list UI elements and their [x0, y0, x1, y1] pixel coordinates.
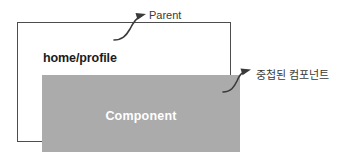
- parent-container-box: home/profile Component: [17, 22, 231, 142]
- nested-component-annotation-label: 중첩된 컴포넌트: [256, 66, 329, 82]
- component-label: Component: [42, 108, 240, 122]
- nested-component-box: Component: [42, 75, 240, 152]
- nested-arrowhead-icon: [241, 69, 252, 76]
- parent-arrowhead-icon: [136, 13, 147, 20]
- parent-annotation-label: Parent: [149, 9, 181, 21]
- route-path-label: home/profile: [43, 51, 117, 65]
